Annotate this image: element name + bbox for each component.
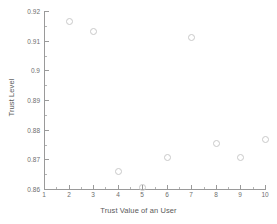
y-tick-minor (45, 26, 47, 27)
x-tick-mark (265, 185, 266, 189)
y-tick-minor (45, 174, 47, 175)
x-axis-title: Trust Value of an User (0, 206, 277, 215)
x-tick-minor (204, 187, 205, 189)
y-tick-label: 0.92 (27, 8, 40, 15)
y-tick-minor (45, 115, 47, 116)
x-tick-mark (216, 185, 217, 189)
data-point-marker (90, 28, 97, 35)
data-point-marker (213, 140, 220, 147)
x-tick-minor (228, 187, 229, 189)
x-tick-minor (155, 187, 156, 189)
y-axis-title: Trust Level (7, 43, 16, 153)
x-tick-mark (69, 185, 70, 189)
y-tick-label: 0.91 (27, 38, 40, 45)
x-tick-label: 4 (108, 191, 128, 199)
y-tick-mark (45, 189, 49, 190)
x-tick-minor (56, 187, 57, 189)
y-tick-minor (45, 145, 47, 146)
x-tick-minor (105, 187, 106, 189)
x-tick-mark (44, 185, 45, 189)
y-tick-minor (45, 85, 47, 86)
y-tick-label: 0.89 (27, 97, 40, 104)
y-tick-label: 0.9 (31, 67, 40, 74)
data-point-marker (66, 18, 73, 25)
x-tick-label: 8 (206, 191, 226, 199)
x-tick-label: 1 (34, 191, 54, 199)
data-point-marker (115, 168, 122, 175)
y-tick-label: 0.88 (27, 127, 40, 134)
x-tick-label: 10 (255, 191, 275, 199)
x-tick-mark (93, 185, 94, 189)
data-point-marker (164, 154, 171, 161)
y-tick-mark (45, 11, 49, 12)
y-tick-mark (45, 70, 49, 71)
y-tick-label: 0.87 (27, 156, 40, 163)
y-tick-label-wrap: 0.87 (0, 156, 40, 163)
y-tick-mark (45, 130, 49, 131)
scatter-chart: 0.860.870.880.890.90.910.92 12345678910 … (0, 0, 277, 224)
x-tick-minor (81, 187, 82, 189)
x-tick-minor (253, 187, 254, 189)
x-tick-label: 6 (157, 191, 177, 199)
x-tick-minor (179, 187, 180, 189)
x-tick-label: 2 (59, 191, 79, 199)
x-tick-mark (240, 185, 241, 189)
data-point-marker (237, 154, 244, 161)
x-tick-label: 7 (181, 191, 201, 199)
x-axis-line (44, 189, 266, 190)
y-tick-label-wrap: 0.92 (0, 8, 40, 15)
y-tick-mark (45, 159, 49, 160)
x-tick-minor (130, 187, 131, 189)
x-tick-mark (118, 185, 119, 189)
x-tick-mark (167, 185, 168, 189)
y-tick-mark (45, 100, 49, 101)
y-tick-mark (45, 41, 49, 42)
x-tick-label: 3 (83, 191, 103, 199)
data-point-marker (262, 136, 269, 143)
y-tick-minor (45, 56, 47, 57)
x-tick-label: 5 (132, 191, 152, 199)
x-tick-label: 9 (230, 191, 250, 199)
data-point-marker (188, 34, 195, 41)
x-tick-mark (191, 185, 192, 189)
